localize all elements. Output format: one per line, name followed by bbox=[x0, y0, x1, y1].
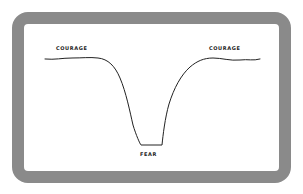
courage-fear-curve bbox=[0, 0, 303, 194]
label-courage-right: COURAGE bbox=[209, 45, 240, 51]
label-courage-left: COURAGE bbox=[56, 45, 87, 51]
label-fear: FEAR bbox=[140, 151, 157, 157]
